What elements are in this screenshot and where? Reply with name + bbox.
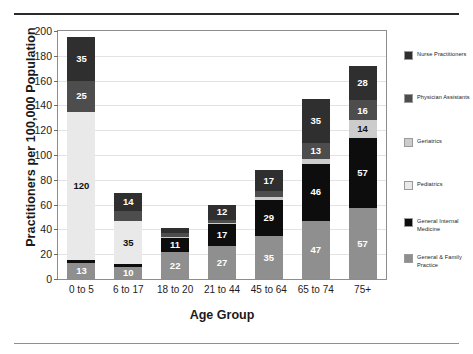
bar-segment (161, 237, 189, 238)
bar-segment (208, 220, 236, 224)
bar-segment: 35 (67, 37, 95, 80)
legend-label: Pediatrics (417, 180, 443, 188)
bar-value-label: 13 (76, 266, 87, 276)
legend-item[interactable]: Nurse Practitioners (404, 50, 466, 60)
bar-segment: 14 (349, 120, 377, 137)
legend-swatch (404, 254, 413, 263)
bar-segment: 46 (302, 164, 330, 221)
bar-segment: 57 (349, 208, 377, 279)
bar-75+[interactable]: 5757141628 (349, 66, 377, 279)
bar-segment: 57 (349, 138, 377, 209)
bar-segment (114, 211, 142, 221)
bar-value-label: 16 (357, 106, 368, 116)
bar-65-to-74[interactable]: 47461335 (302, 99, 330, 279)
legend-label: Nurse Practitioners (417, 50, 466, 58)
bar-segment: 11 (161, 238, 189, 252)
legend-swatch (404, 138, 413, 147)
bar-value-label: 28 (357, 78, 368, 88)
bar-value-label: 22 (170, 261, 181, 271)
top-divider (14, 13, 459, 15)
y-axis-tick-label: 160 (34, 75, 52, 87)
bar-value-label: 47 (310, 245, 321, 255)
bar-value-label: 29 (264, 213, 275, 223)
legend-label: Geriatrics (417, 137, 442, 145)
bar-segment: 120 (67, 112, 95, 261)
bar-segment: 28 (349, 66, 377, 101)
x-axis-title: Age Group (57, 308, 387, 322)
bar-segment: 14 (114, 193, 142, 210)
y-axis-tick-mark (54, 279, 58, 280)
bar-value-label: 46 (310, 187, 321, 197)
y-axis-tick-label: 200 (34, 25, 52, 37)
legend-swatch (404, 181, 413, 190)
bar-segment: 27 (208, 246, 236, 279)
bar-segment (161, 228, 189, 233)
bar-6-to-17[interactable]: 103514 (114, 193, 142, 279)
x-axis-tick-label: 6 to 17 (113, 284, 144, 295)
legend-swatch (404, 51, 413, 60)
y-axis-tick-label: 120 (34, 124, 52, 136)
bar-segment: 25 (67, 81, 95, 112)
chart-legend: Nurse PractitionersPhysician AssistantsG… (404, 30, 473, 280)
plot-area: 020406080100120140160180200 131202535103… (57, 30, 387, 280)
bar-45-to-64[interactable]: 352917 (255, 170, 283, 279)
y-axis-tick-label: 100 (34, 149, 52, 161)
bar-segment: 22 (161, 252, 189, 279)
bar-value-label: 120 (73, 181, 89, 191)
bar-segment: 35 (302, 99, 330, 142)
legend-swatch (404, 218, 413, 227)
bar-value-label: 57 (357, 168, 368, 178)
x-axis-tick-label: 18 to 20 (157, 284, 193, 295)
y-axis-tick-label: 20 (40, 248, 52, 260)
bar-value-label: 35 (264, 253, 275, 263)
legend-item[interactable]: Geriatrics (404, 137, 442, 147)
x-axis-tick-label: 0 to 5 (69, 284, 94, 295)
bar-value-label: 13 (310, 146, 321, 156)
bar-segment: 13 (302, 143, 330, 159)
bar-segment (302, 159, 330, 164)
bar-value-label: 11 (170, 240, 180, 250)
bar-21-to-44[interactable]: 271712 (208, 205, 236, 279)
bar-segment (114, 264, 142, 266)
bar-value-label: 12 (217, 207, 228, 217)
bar-segment: 12 (208, 205, 236, 220)
y-axis-tick-label: 40 (40, 223, 52, 235)
bar-segment: 35 (114, 221, 142, 264)
bar-segment: 17 (255, 170, 283, 191)
legend-label: Physician Assistants (417, 93, 470, 101)
bottom-divider (14, 343, 459, 344)
x-axis-tick-label: 21 to 44 (204, 284, 240, 295)
bar-value-label: 27 (217, 258, 228, 268)
legend-swatch (404, 94, 413, 103)
bar-value-label: 14 (357, 124, 368, 134)
bar-value-label: 17 (264, 176, 275, 186)
bar-segment (255, 197, 283, 199)
legend-item[interactable]: Pediatrics (404, 180, 443, 190)
y-axis-tick-label: 180 (34, 50, 52, 62)
legend-item[interactable]: General Internal Medicine (404, 217, 473, 233)
bar-segment: 10 (114, 267, 142, 279)
legend-item[interactable]: General & Family Practice (404, 253, 473, 269)
bar-segment: 16 (349, 100, 377, 120)
y-axis-tick-label: 60 (40, 199, 52, 211)
bar-value-label: 10 (123, 268, 134, 278)
legend-item[interactable]: Physician Assistants (404, 93, 470, 103)
bar-segment: 29 (255, 200, 283, 236)
bar-value-label: 57 (357, 239, 368, 249)
y-axis-tick-label: 80 (40, 174, 52, 186)
y-axis-tick-label: 140 (34, 99, 52, 111)
bar-segment (255, 191, 283, 197)
bar-18-to-20[interactable]: 2211 (161, 228, 189, 279)
bar-segment: 13 (67, 263, 95, 279)
bar-value-label: 35 (310, 116, 321, 126)
bar-value-label: 17 (217, 230, 228, 240)
y-axis-tick-label: 0 (46, 273, 52, 285)
x-axis-tick-label: 75+ (354, 284, 371, 295)
bar-segment (208, 223, 236, 224)
bar-segment: 47 (302, 221, 330, 279)
bar-series-group: 1312025351035142211271712352917474613355… (58, 31, 386, 279)
bar-segment (161, 233, 189, 237)
bar-0-to-5[interactable]: 131202535 (67, 37, 95, 279)
chart-figure: Practitioners per 100,000 Population 020… (0, 18, 473, 338)
bar-segment: 35 (255, 236, 283, 279)
